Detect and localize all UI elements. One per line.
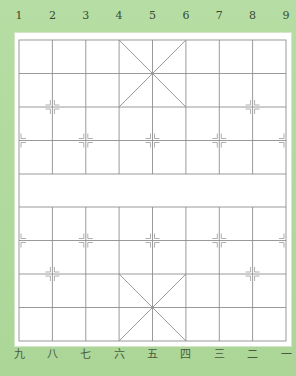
board-frame: 1 2 3 4 5 6 7 8 9 [0, 0, 296, 376]
column-label-bottom: 七 [74, 345, 98, 365]
column-label-top: 1 [7, 6, 31, 26]
board-grid [15, 33, 291, 346]
column-label-top: 8 [241, 6, 265, 26]
xiangqi-board[interactable] [15, 33, 291, 346]
column-label-top: 2 [40, 6, 64, 26]
column-label-top: 9 [274, 6, 296, 26]
column-label-bottom: 三 [207, 345, 231, 365]
column-labels-bottom: 九 八 七 六 五 四 三 二 一 [0, 345, 296, 365]
column-label-top: 6 [174, 6, 198, 26]
column-label-top: 5 [141, 6, 165, 26]
column-label-bottom: 九 [7, 345, 31, 365]
column-labels-top: 1 2 3 4 5 6 7 8 9 [0, 6, 296, 26]
column-label-bottom: 一 [274, 345, 296, 365]
column-label-top: 4 [107, 6, 131, 26]
column-label-bottom: 五 [141, 345, 165, 365]
column-label-top: 7 [207, 6, 231, 26]
column-label-bottom: 八 [40, 345, 64, 365]
column-label-bottom: 二 [241, 345, 265, 365]
column-label-top: 3 [74, 6, 98, 26]
column-label-bottom: 六 [107, 345, 131, 365]
column-label-bottom: 四 [174, 345, 198, 365]
